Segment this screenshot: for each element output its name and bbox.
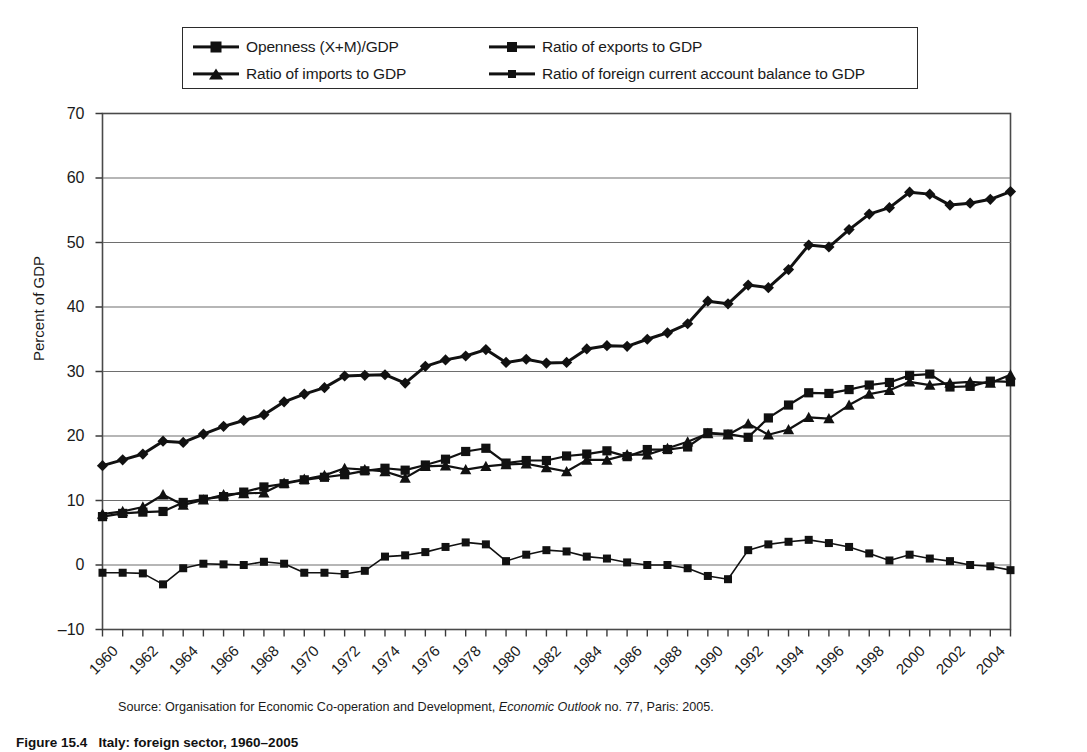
y-axis-tick-label: –10 [41, 621, 85, 639]
figure-caption-text: Italy: foreign sector, 1960–2005 [99, 735, 299, 750]
y-axis-tick-label: 30 [41, 363, 85, 381]
y-axis-tick-label: 0 [41, 556, 85, 574]
source-prefix: Source: Organisation for Economic Co-ope… [118, 700, 499, 714]
figure-number: Figure 15.4 [16, 735, 87, 750]
source-italic-title: Economic Outlook [499, 700, 601, 714]
y-axis-tick-label: 10 [41, 492, 85, 510]
y-axis-tick-label: 60 [41, 169, 85, 187]
y-axis-tick-label: 40 [41, 298, 85, 316]
source-suffix: no. 77, Paris: 2005. [601, 700, 714, 714]
figure-caption: Figure 15.4 Italy: foreign sector, 1960–… [16, 735, 298, 750]
y-axis-tick-label: 20 [41, 427, 85, 445]
y-axis-tick-label: 70 [41, 105, 85, 123]
source-note: Source: Organisation for Economic Co-ope… [118, 700, 714, 714]
y-axis-tick-label: 50 [41, 234, 85, 252]
